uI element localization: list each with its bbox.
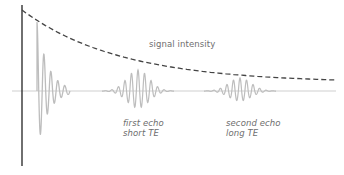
signal-intensity-label: signal intensity xyxy=(149,39,215,49)
free-induction-decay-waveform xyxy=(37,22,70,134)
echo-decay-diagram xyxy=(0,0,344,175)
first-echo-waveform xyxy=(102,70,174,107)
second-echo-label: second echo long TE xyxy=(226,118,281,138)
first-echo-label: first echo short TE xyxy=(123,118,164,138)
second-echo-waveform xyxy=(204,78,276,101)
first-echo-label-line2: short TE xyxy=(123,128,164,138)
second-echo-label-line1: second echo xyxy=(226,118,281,128)
second-echo-label-line2: long TE xyxy=(226,128,281,138)
first-echo-label-line1: first echo xyxy=(123,118,164,128)
